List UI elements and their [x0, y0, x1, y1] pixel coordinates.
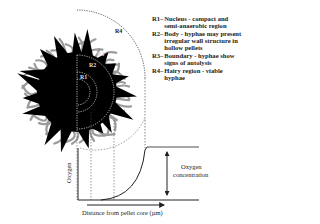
- legend-text: Boundary - hyphae show signs of autolysi…: [163, 52, 243, 66]
- legend-key: R2–: [152, 30, 163, 52]
- label-r4: R4: [115, 28, 122, 34]
- y-axis-label: Oxygen: [65, 162, 72, 183]
- x-axis-label: Distance from pellet core (µm): [82, 209, 163, 217]
- legend-text: Nucleus - compact and semi-anaerobic reg…: [163, 15, 243, 29]
- legend-text: Hairy region - viable hyphae: [163, 67, 243, 81]
- legend-key: R4–: [152, 67, 163, 81]
- pellet-spike: [78, 129, 89, 148]
- annotation-line2: concentration: [173, 171, 209, 178]
- region-legend: R1– Nucleus - compact and semi-anaerobic…: [152, 15, 243, 82]
- legend-item-r4: R4– Hairy region - viable hyphae: [152, 67, 243, 81]
- oxygen-graph: Oxygen Distance from pellet core (µm) Ox…: [65, 147, 209, 217]
- legend-item-r2: R2– Body - hyphae may present irregular …: [152, 30, 243, 52]
- legend-key: R3–: [152, 52, 163, 66]
- label-r3: R3: [97, 51, 104, 57]
- annotation-line1: Oxygen: [181, 163, 202, 170]
- legend-item-r1: R1– Nucleus - compact and semi-anaerobic…: [152, 15, 243, 29]
- label-r1: R1: [80, 74, 87, 80]
- legend-key: R1–: [152, 15, 163, 29]
- legend-text: Body - hyphae may present irregular wall…: [163, 30, 243, 52]
- legend-item-r3: R3– Boundary - hyphae show signs of auto…: [152, 52, 243, 66]
- pellet-spike: [116, 86, 137, 97]
- oxygen-curve: [101, 147, 147, 200]
- hypha: [115, 98, 129, 100]
- label-r2: R2: [89, 62, 96, 68]
